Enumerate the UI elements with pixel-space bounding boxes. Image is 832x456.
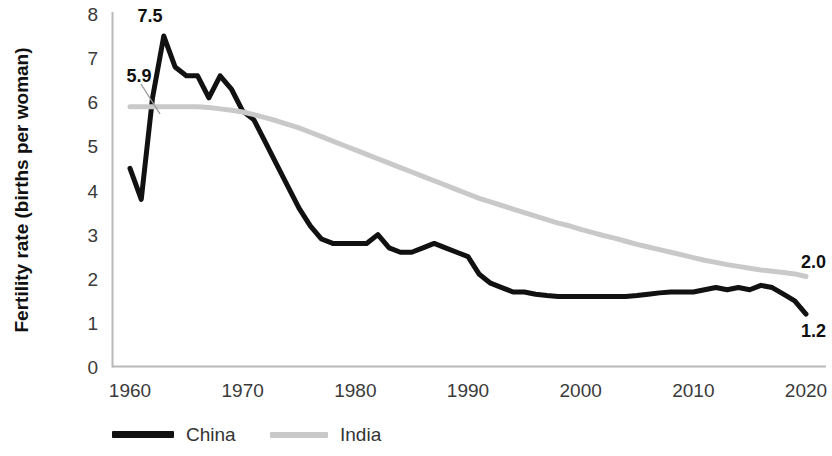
y-tick-label: 4 [87,181,98,202]
annotation-india-end: 2.0 [801,252,826,272]
y-axis-tick-labels: 012345678 [87,4,98,378]
legend-label-china: China [186,424,236,445]
annotation-india-start: 5.9 [126,66,151,86]
chart-canvas: Fertility rate (births per woman) 012345… [0,0,832,456]
series-line-india [130,107,806,277]
fertility-rate-chart: Fertility rate (births per woman) 012345… [0,0,832,456]
y-axis-title-text: Fertility rate (births per woman) [11,47,32,332]
x-tick-label: 2020 [785,380,827,401]
series-layer [130,36,806,314]
x-tick-label: 2000 [560,380,602,401]
x-tick-label: 1990 [447,380,489,401]
annotation-china-end: 1.2 [801,321,826,341]
y-axis-title: Fertility rate (births per woman) [11,47,32,332]
x-axis-tick-labels: 1960197019801990200020102020 [109,380,827,401]
y-tick-label: 7 [87,48,98,69]
legend-swatch-india [270,432,328,438]
y-tick-label: 2 [87,269,98,290]
chart-legend: China India [112,424,382,445]
x-tick-label: 1970 [222,380,264,401]
legend-label-india: India [340,424,382,445]
series-line-china [130,36,806,314]
annotation-china-peak: 7.5 [137,6,162,26]
y-tick-label: 6 [87,92,98,113]
y-tick-label: 3 [87,225,98,246]
y-tick-label: 8 [87,4,98,25]
x-tick-label: 1980 [334,380,376,401]
y-tick-label: 5 [87,136,98,157]
legend-swatch-china [112,431,174,438]
y-tick-label: 1 [87,313,98,334]
y-tick-label: 0 [87,357,98,378]
x-tick-label: 1960 [109,380,151,401]
x-tick-label: 2010 [672,380,714,401]
